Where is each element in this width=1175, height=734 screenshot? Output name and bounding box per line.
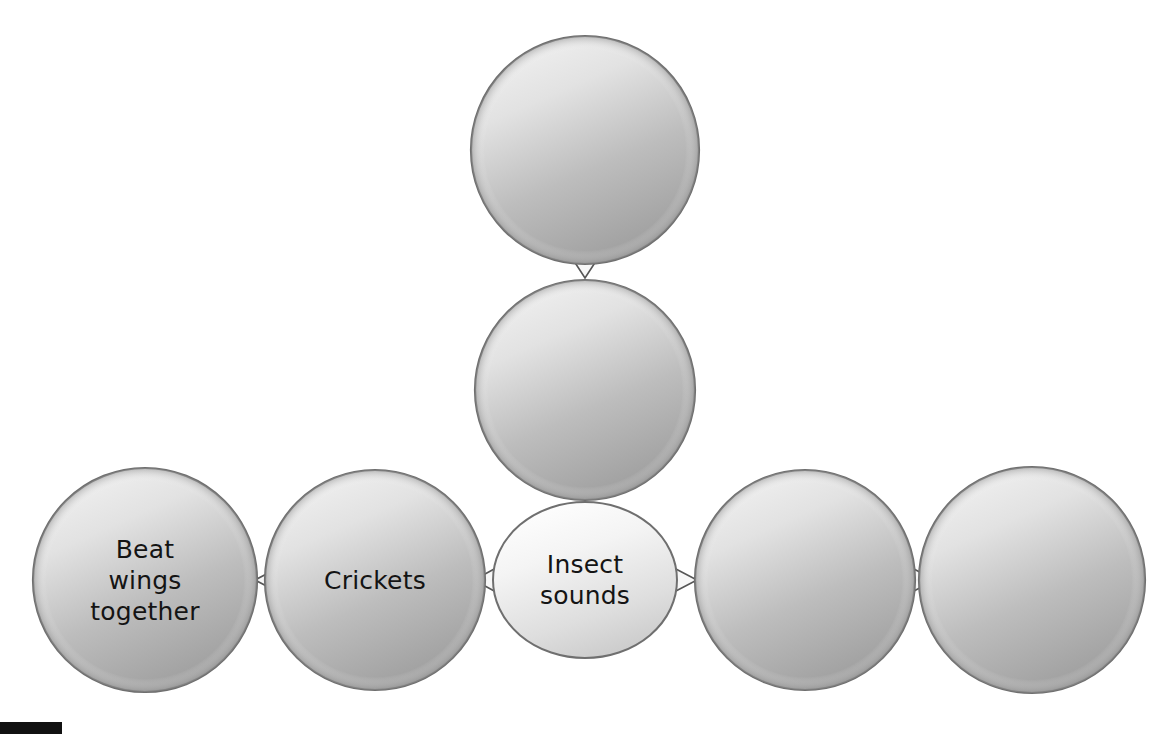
node-upper-middle-rim — [475, 280, 695, 500]
concept-map-svg: Beat wings together Crickets Insect soun… — [0, 0, 1175, 734]
node-right-inner-empty[interactable] — [695, 470, 915, 690]
node-top-empty[interactable] — [471, 36, 699, 264]
corner-black-bar — [0, 722, 62, 734]
node-crickets[interactable]: Crickets — [265, 470, 485, 690]
node-right-outer-empty[interactable] — [919, 467, 1145, 693]
diagram-canvas: Beat wings together Crickets Insect soun… — [0, 0, 1175, 734]
node-beat-wings-label-line3: together — [90, 597, 200, 626]
node-beat-wings-label-line1: Beat — [116, 535, 174, 564]
node-upper-middle-empty[interactable] — [475, 280, 695, 500]
node-insect-sounds[interactable]: Insect sounds — [493, 502, 677, 658]
node-top-rim — [471, 36, 699, 264]
node-beat-wings-together[interactable]: Beat wings together — [33, 468, 257, 692]
node-crickets-label: Crickets — [324, 566, 426, 595]
node-right-outer-rim — [919, 467, 1145, 693]
node-insect-sounds-label-line1: Insect — [547, 550, 623, 579]
node-insect-sounds-shape[interactable] — [493, 502, 677, 658]
node-beat-wings-label-line2: wings — [108, 566, 181, 595]
node-right-inner-rim — [695, 470, 915, 690]
node-insect-sounds-label-line2: sounds — [540, 581, 630, 610]
